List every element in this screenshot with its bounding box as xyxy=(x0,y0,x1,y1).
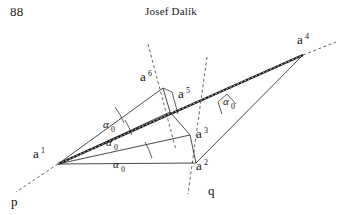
point-label-a1-base: a xyxy=(33,146,39,161)
point-label-a3: a 3 xyxy=(196,126,208,141)
angle-label-alpha0-1-sub: 0 xyxy=(111,125,115,134)
angle-label-alpha0-4-sub: 0 xyxy=(231,102,235,111)
dashed-ray-beyond-a4 xyxy=(303,42,336,55)
point-label-a6-base: a xyxy=(140,69,146,84)
angle-label-alpha0-4-alpha: α xyxy=(223,95,229,107)
point-label-a3-sup: 3 xyxy=(204,126,208,135)
angle-arc-3 xyxy=(115,107,124,123)
point-label-a4: a 4 xyxy=(297,32,309,47)
dashed-line-p xyxy=(16,164,58,192)
angle-label-alpha0-4: α 0 xyxy=(223,95,235,111)
page-root: 88 Josef Dalík xyxy=(0,0,342,215)
point-label-a2-sup: 2 xyxy=(204,158,208,167)
line-label-p: p xyxy=(11,194,18,209)
point-label-a6: a 6 xyxy=(140,69,152,84)
point-label-a1-sup: 1 xyxy=(41,146,45,155)
angle-label-alpha0-3-alpha: α xyxy=(113,158,119,170)
point-label-a2-base: a xyxy=(196,158,202,173)
angle-label-alpha0-1: α 0 xyxy=(103,118,115,134)
dashed-line-through-a5 xyxy=(148,44,176,150)
angle-label-alpha0-3-sub: 0 xyxy=(121,165,125,174)
segment-a2-to-a4 xyxy=(196,55,303,163)
angle-label-alpha0-1-alpha: α xyxy=(103,118,109,130)
angle-marker-a5-a4-leg xyxy=(218,102,222,114)
point-label-a6-sup: 6 xyxy=(148,69,152,78)
point-label-a5-sup: 5 xyxy=(186,86,190,95)
geometry-figure-svg: a 6 a 5 a 4 a 3 a 2 xyxy=(0,22,342,215)
angle-label-alpha0-3: α 0 xyxy=(113,158,125,174)
point-label-a2: a 2 xyxy=(196,158,208,173)
ray-a1-to-a2 xyxy=(58,163,196,164)
segment-a5-to-a3 xyxy=(170,112,190,135)
point-label-a3-base: a xyxy=(196,126,202,141)
point-label-a4-base: a xyxy=(297,32,303,47)
angle-label-alpha0-2-alpha: α xyxy=(106,136,112,148)
running-head-author: Josef Dalík xyxy=(0,5,342,17)
geometry-figure: a 6 a 5 a 4 a 3 a 2 xyxy=(0,22,342,215)
line-label-q: q xyxy=(208,183,215,198)
angle-label-alpha0-2-sub: 0 xyxy=(114,143,118,152)
point-label-a1: a 1 xyxy=(33,146,45,161)
point-label-a4-sup: 4 xyxy=(305,32,309,41)
segment-a6-to-a5 xyxy=(163,88,170,112)
point-label-a5-base: a xyxy=(178,86,184,101)
point-label-a5: a 5 xyxy=(178,86,190,101)
